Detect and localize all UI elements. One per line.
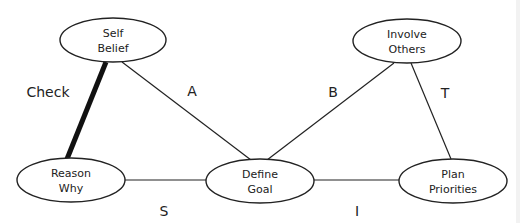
edge-t [411,63,451,159]
goal-setting-diagram: SelfBeliefInvolveOthersReasonWhyDefineGo… [0,0,520,223]
node-label-line: Why [59,182,84,195]
node-define-goal: DefineGoal [206,159,314,203]
node-ellipse [353,19,461,63]
node-plan-priorities: PlanPriorities [399,159,507,203]
node-reason-why: ReasonWhy [17,158,125,202]
node-label-line: Priorities [429,183,477,196]
edge-b [267,63,394,160]
node-label-line: Others [389,43,426,56]
node-ellipse [399,159,507,203]
node-label-line: Plan [441,168,464,181]
nodes-layer: SelfBeliefInvolveOthersReasonWhyDefineGo… [17,18,507,203]
edge-label-a: A [187,83,197,99]
edge-label-s: S [160,203,169,219]
node-self-belief: SelfBelief [60,18,166,62]
node-label-line: Involve [387,28,427,41]
node-label-line: Goal [247,183,272,196]
edge-label-t: T [440,85,450,101]
node-label-line: Define [242,168,278,181]
right-edge-strip [516,0,520,223]
node-label-line: Belief [97,42,129,55]
edge-check [67,62,106,159]
edge-label-i: I [355,203,359,219]
node-label-line: Self [103,27,125,40]
node-involve-others: InvolveOthers [353,19,461,63]
edge-a [122,62,251,160]
edge-label-b: B [328,84,338,100]
node-label-line: Reason [51,167,91,180]
edge-label-check: Check [26,84,70,100]
node-ellipse [206,159,314,203]
node-ellipse [17,158,125,202]
node-ellipse [60,18,166,62]
